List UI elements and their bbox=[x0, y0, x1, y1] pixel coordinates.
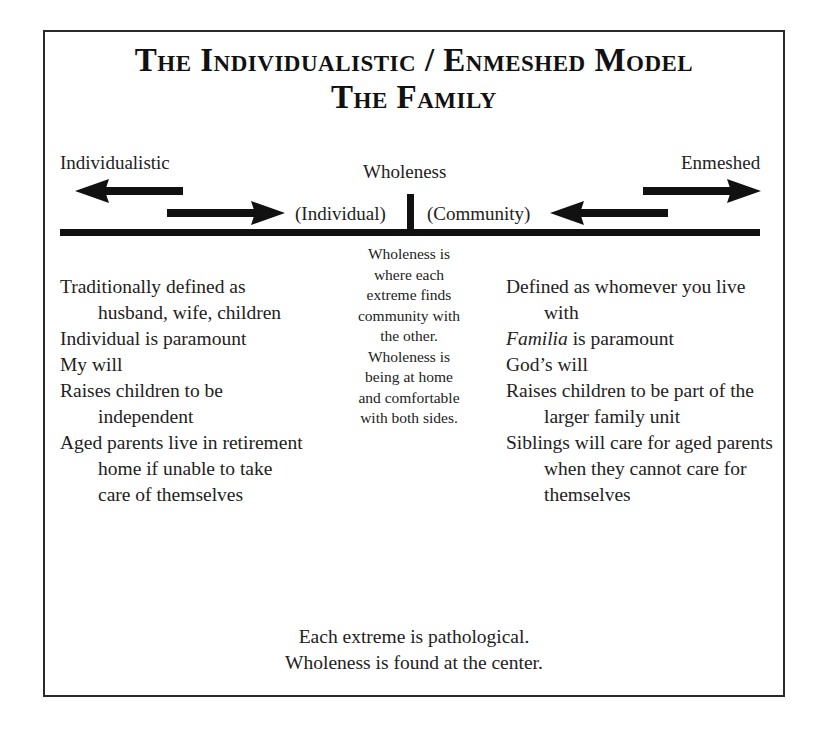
footer-line-2: Wholeness is found at the center. bbox=[45, 650, 783, 676]
center-line: the other. bbox=[345, 326, 473, 347]
footer-line-1: Each extreme is pathological. bbox=[45, 624, 783, 650]
center-line: with both sides. bbox=[345, 408, 473, 429]
center-description: Wholeness is where each extreme finds co… bbox=[345, 244, 473, 429]
individualistic-arrow-icon bbox=[75, 179, 185, 203]
individualistic-column: Traditionally defined as husband, wife, … bbox=[60, 274, 308, 508]
center-line: extreme finds bbox=[345, 285, 473, 306]
footer-summary: Each extreme is pathological. Wholeness … bbox=[45, 624, 783, 676]
label-wholeness: Wholeness bbox=[363, 161, 446, 183]
wholeness-center-post bbox=[407, 194, 414, 234]
diagram-frame: The Individualistic / Enmeshed Model The… bbox=[43, 30, 785, 697]
list-item: Aged parents live in retirement home if … bbox=[60, 430, 308, 508]
list-item: Familia is paramount bbox=[506, 326, 776, 352]
list-item: Raises children to be part of the larger… bbox=[506, 378, 776, 430]
label-individual: (Individual) bbox=[295, 203, 386, 225]
list-item: Traditionally defined as husband, wife, … bbox=[60, 274, 308, 326]
list-item: Raises children to be independent bbox=[60, 378, 308, 430]
center-line: where each bbox=[345, 265, 473, 286]
center-line: and comfortable bbox=[345, 388, 473, 409]
title-line-1: The Individualistic / Enmeshed Model bbox=[45, 42, 783, 79]
list-item: My will bbox=[60, 352, 308, 378]
label-individualistic: Individualistic bbox=[60, 152, 170, 174]
left-arrow-to-center-icon bbox=[550, 201, 668, 225]
list-item: Siblings will care for aged parents when… bbox=[506, 430, 776, 508]
list-item: Individual is paramount bbox=[60, 326, 308, 352]
center-line: being at home bbox=[345, 367, 473, 388]
list-item: God’s will bbox=[506, 352, 776, 378]
enmeshed-arrow-icon bbox=[643, 179, 761, 203]
center-line: Wholeness is bbox=[345, 244, 473, 265]
label-enmeshed: Enmeshed bbox=[681, 152, 760, 174]
list-item: Defined as whomever you live with bbox=[506, 274, 776, 326]
familia-italic: Familia bbox=[506, 328, 568, 349]
title-line-2: The Family bbox=[45, 79, 783, 116]
center-line: Wholeness is bbox=[345, 347, 473, 368]
center-line: community with bbox=[345, 306, 473, 327]
enmeshed-column: Defined as whomever you live with Famili… bbox=[506, 274, 776, 508]
right-arrow-to-center-icon bbox=[167, 201, 285, 225]
label-community: (Community) bbox=[427, 203, 530, 225]
